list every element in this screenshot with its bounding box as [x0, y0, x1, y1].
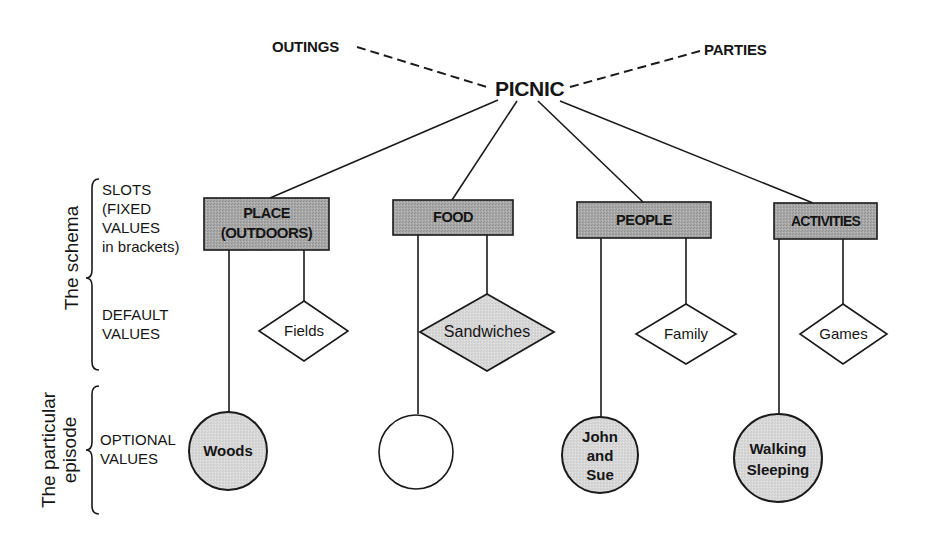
default-legend-line-2: VALUES: [102, 324, 168, 343]
default-legend-line-1: DEFAULT: [102, 305, 168, 324]
schema-brace: [86, 179, 99, 370]
slot-label-food: FOOD: [393, 208, 513, 227]
slot-label-activities: ACTIVITIES: [774, 212, 877, 231]
related-concept-parties: PARTIES: [704, 41, 767, 58]
slots-legend-line-3: VALUES: [102, 218, 180, 237]
slot-name-place: PLACE: [204, 204, 329, 223]
default-values-legend: DEFAULT VALUES: [102, 305, 168, 343]
optional-value-activities-line-2: Sleeping: [734, 459, 822, 480]
slots-legend-line-4: in brackets): [102, 237, 180, 256]
schema-vertical-label: The schema: [61, 178, 82, 338]
dashed-link-parties: [570, 51, 700, 87]
root-concept-picnic: PICNIC: [495, 77, 564, 101]
optional-legend-line-2: VALUES: [100, 449, 176, 468]
episode-label-line-2: episode: [59, 370, 80, 530]
optional-circle-food: [379, 415, 453, 489]
slots-legend: SLOTS (FIXED VALUES in brackets): [102, 180, 180, 256]
default-value-people: Family: [636, 324, 736, 343]
slot-label-people: PEOPLE: [577, 211, 711, 230]
optional-value-activities-line-1: Walking: [734, 438, 822, 459]
optional-value-people-line-3: Sue: [562, 465, 638, 484]
slots-legend-line-2: (FIXED: [102, 199, 180, 218]
slots-legend-line-1: SLOTS: [102, 180, 180, 199]
slot-fixed-value-place: (OUTDOORS): [204, 223, 329, 242]
optional-values-legend: OPTIONAL VALUES: [100, 430, 176, 468]
link-picnic-people: [538, 101, 643, 202]
episode-vertical-label: The particular episode: [38, 370, 80, 530]
optional-value-place: Woods: [189, 441, 267, 460]
related-concept-outings: OUTINGS: [272, 38, 339, 55]
slot-label-place: PLACE (OUTDOORS): [204, 204, 329, 242]
optional-value-activities: Walking Sleeping: [734, 438, 822, 480]
default-value-activities: Games: [800, 324, 887, 343]
default-value-place: Fields: [259, 321, 349, 340]
link-picnic-activities: [560, 101, 813, 203]
episode-label-line-1: The particular: [38, 370, 59, 530]
optional-value-people-line-2: and: [562, 446, 638, 465]
optional-value-people-line-1: John: [562, 427, 638, 446]
optional-legend-line-1: OPTIONAL: [100, 430, 176, 449]
dashed-link-outings: [357, 47, 490, 88]
episode-brace: [86, 386, 99, 514]
default-value-food: Sandwiches: [420, 322, 554, 341]
optional-value-people: John and Sue: [562, 427, 638, 484]
